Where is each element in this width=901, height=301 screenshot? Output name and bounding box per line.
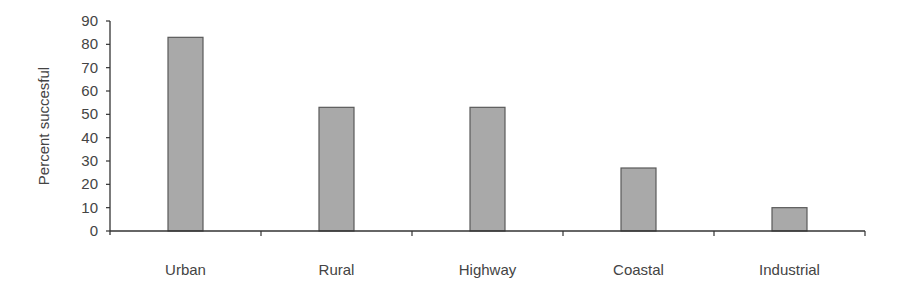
y-tick-label: 0 [90, 222, 98, 239]
bar-urban [168, 37, 203, 231]
y-tick-label: 40 [81, 129, 98, 146]
y-axis-ticks: 0102030405060708090 [81, 12, 110, 239]
bar-industrial [772, 208, 807, 231]
x-tick-label-rural: Rural [319, 261, 355, 278]
y-tick-label: 70 [81, 59, 98, 76]
y-axis-title: Percent succesful [35, 67, 52, 185]
y-tick-label: 60 [81, 82, 98, 99]
bar-coastal [621, 168, 656, 231]
bar-rural [319, 107, 354, 231]
x-tick-label-coastal: Coastal [613, 261, 664, 278]
bar-chart: 0102030405060708090 UrbanRuralHighwayCoa… [0, 0, 901, 301]
y-tick-label: 10 [81, 199, 98, 216]
y-tick-label: 80 [81, 35, 98, 52]
x-axis-ticks: UrbanRuralHighwayCoastalIndustrial [165, 231, 865, 278]
y-tick-label: 30 [81, 152, 98, 169]
y-tick-label: 20 [81, 175, 98, 192]
x-tick-label-industrial: Industrial [759, 261, 820, 278]
x-tick-label-urban: Urban [165, 261, 206, 278]
y-tick-label: 90 [81, 12, 98, 29]
y-tick-label: 50 [81, 105, 98, 122]
bar-highway [470, 107, 505, 231]
x-tick-label-highway: Highway [459, 261, 517, 278]
bars [168, 37, 807, 231]
